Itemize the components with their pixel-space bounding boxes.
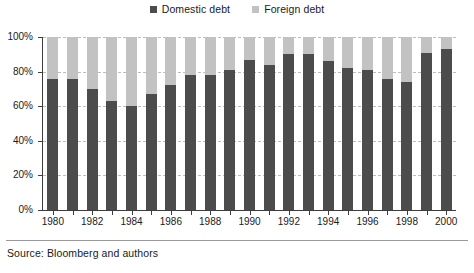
y-axis-tick-label: 40% [0,136,33,146]
bar-group [185,37,196,210]
x-axis-tick-label: 1998 [387,217,427,227]
x-axis-tick [230,210,231,215]
bar-segment-foreign [362,37,373,70]
bar-segment-foreign [421,37,432,53]
bar-segment-domestic [303,54,314,210]
bar-segment-foreign [224,37,235,70]
bar-segment-foreign [87,37,98,89]
y-axis-tick-label: 100% [0,32,33,42]
bar-segment-foreign [126,37,137,106]
legend-item-domestic: Domestic debt [150,4,230,15]
legend-label-foreign: Foreign debt [264,4,324,15]
bar-group [244,37,255,210]
y-axis-tick [38,72,42,73]
bar-group [303,37,314,210]
bar-group [362,37,373,210]
bar-segment-domestic [421,53,432,210]
x-axis-tick [348,210,349,215]
bar-segment-foreign [205,37,216,75]
x-axis-tick-label: 2000 [426,217,466,227]
x-axis-tick [151,210,152,215]
bar-segment-domestic [441,49,452,210]
bar-segment-foreign [342,37,353,68]
bar-segment-foreign [382,37,393,79]
legend-item-foreign: Foreign debt [252,4,324,15]
bar-group [67,37,78,210]
x-axis-tick-label: 1994 [308,217,348,227]
x-axis-tick [210,210,211,215]
x-axis-tick [387,210,388,215]
x-axis-tick [269,210,270,215]
y-axis-tick-label: 60% [0,101,33,111]
x-axis-tick [73,210,74,215]
y-axis-tick-label: 0% [0,205,33,215]
bar-segment-foreign [165,37,176,85]
x-axis-tick [309,210,310,215]
x-axis-tick [132,210,133,215]
chart-legend: Domestic debt Foreign debt [0,4,474,15]
y-axis-tick [38,37,42,38]
bar-segment-foreign [323,37,334,61]
x-axis-tick-label: 1986 [151,217,191,227]
bar-group [441,37,452,210]
bar-segment-foreign [146,37,157,94]
bar-segment-domestic [106,101,117,210]
bar-group [323,37,334,210]
chart-container: Domestic debt Foreign debt 1980198219841… [0,0,474,273]
legend-swatch-domestic-icon [150,6,157,13]
x-axis-tick [368,210,369,215]
bar-group [224,37,235,210]
bar-segment-foreign [185,37,196,75]
bar-group [87,37,98,210]
x-axis-tick [53,210,54,215]
y-axis-tick-label: 80% [0,67,33,77]
bar-segment-domestic [47,79,58,210]
x-axis-tick-label: 1980 [33,217,73,227]
bar-segment-foreign [264,37,275,65]
x-axis-tick-label: 1996 [348,217,388,227]
legend-swatch-foreign-icon [252,6,259,13]
y-axis-tick [38,106,42,107]
bar-segment-domestic [382,79,393,210]
bar-segment-foreign [303,37,314,54]
x-axis-tick [328,210,329,215]
x-axis-tick [407,210,408,215]
bar-segment-domestic [244,60,255,211]
bar-group [106,37,117,210]
bar-segment-domestic [264,65,275,210]
bar-segment-domestic [283,54,294,210]
bar-segment-domestic [362,70,373,210]
x-axis-tick [289,210,290,215]
x-axis-tick-label: 1988 [190,217,230,227]
bar-segment-domestic [401,82,412,210]
bar-group [165,37,176,210]
x-axis-tick [112,210,113,215]
x-axis-tick [171,210,172,215]
bar-segment-domestic [224,70,235,210]
x-axis-tick-label: 1992 [269,217,309,227]
x-axis-tick [191,210,192,215]
bar-segment-domestic [87,89,98,210]
bar-group [342,37,353,210]
x-axis-tick [92,210,93,215]
source-note: Source: Bloomberg and authors [7,247,158,259]
bar-segment-domestic [323,61,334,210]
source-divider [6,240,468,241]
bar-series-group [43,37,456,210]
x-axis-tick-label: 1990 [230,217,270,227]
x-axis-tick-label: 1984 [112,217,152,227]
bar-segment-foreign [67,37,78,79]
bar-segment-domestic [67,79,78,210]
bar-segment-foreign [441,37,452,49]
bar-segment-domestic [126,106,137,210]
bar-segment-foreign [47,37,58,79]
bar-group [421,37,432,210]
bar-segment-domestic [185,75,196,210]
bar-segment-foreign [106,37,117,101]
legend-label-domestic: Domestic debt [162,4,230,15]
bar-segment-domestic [342,68,353,210]
y-axis-tick [38,141,42,142]
bar-group [401,37,412,210]
bar-segment-domestic [165,85,176,210]
bar-segment-domestic [205,75,216,210]
